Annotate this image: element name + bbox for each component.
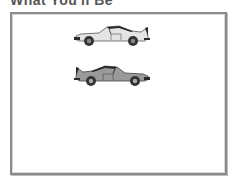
grey-classic-car-image[interactable] [73,64,151,88]
page-heading: What You'll Be [10,0,113,8]
drawing-canvas[interactable] [10,12,227,175]
light-classic-car-image[interactable] [73,24,151,48]
